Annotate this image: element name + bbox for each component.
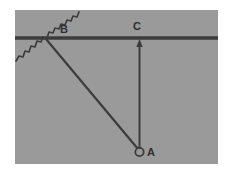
pendulum-diagram: B C A xyxy=(0,0,233,175)
diagram-panel xyxy=(15,10,218,164)
label-point-a: A xyxy=(147,146,155,158)
label-point-b: B xyxy=(60,23,68,35)
label-point-c: C xyxy=(133,20,141,32)
figure-root: B C A xyxy=(0,0,233,175)
pendulum-bob-circle xyxy=(135,148,143,156)
